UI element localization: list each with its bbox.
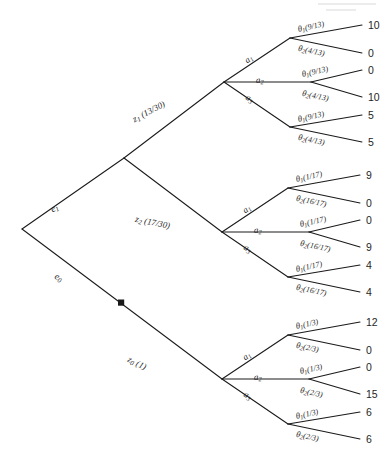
edge-z1-a1-theta1 [290, 25, 362, 38]
edge-z1-a3-theta1 [290, 115, 362, 127]
edge-z0-a2-theta1 [309, 367, 360, 379]
edge-z0-a1-theta1 [288, 322, 360, 335]
scan-artifact [326, 9, 356, 11]
edge-z2-a2-theta1 [309, 220, 360, 232]
edge-z2-a1-theta1 [288, 175, 360, 188]
edge-e1-z2 [124, 158, 222, 232]
edge-z2-a3 [222, 232, 288, 277]
edge-z2-a1 [222, 188, 288, 232]
scan-artifact [318, 3, 376, 5]
edge-z1-a1 [224, 38, 290, 82]
edge-z1-a2-theta2 [311, 82, 362, 97]
edge-z1-a3 [224, 82, 290, 127]
edge-z0-a3-theta2 [288, 424, 360, 439]
edge-z0-a3 [222, 379, 288, 424]
edge-z0-a1-theta2 [288, 335, 360, 350]
edge-z0-a3-theta1 [288, 412, 360, 424]
edge-z1-a1-theta2 [290, 38, 362, 53]
optimal-branch-marker [118, 300, 124, 306]
edge-z2-a3-theta2 [288, 277, 360, 292]
edge-root-e1 [22, 158, 124, 229]
edge-z2-a3-theta1 [288, 265, 360, 277]
edge-z2-a1-theta2 [288, 188, 360, 203]
edge-z1-a3-theta2 [290, 127, 362, 142]
edge-z2-a2-theta2 [309, 232, 360, 247]
decision-tree-canvas [0, 0, 389, 466]
edge-z1-a2-theta1 [311, 70, 362, 82]
edge-z0-a1 [222, 335, 288, 379]
edge-e1-z1 [124, 82, 224, 158]
edge-z0-a2-theta2 [309, 379, 360, 394]
